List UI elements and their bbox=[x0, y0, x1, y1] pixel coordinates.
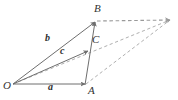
vector-label-a: a bbox=[48, 82, 53, 92]
vertex-label-C: C bbox=[92, 34, 99, 45]
edge-B-D-line bbox=[97, 20, 170, 21]
edge-O-D-line bbox=[13, 20, 170, 84]
vertex-label-B: B bbox=[94, 3, 101, 14]
dashed-edges bbox=[13, 20, 170, 84]
vertex-label-A: A bbox=[88, 85, 95, 96]
edge-A-B-line bbox=[85, 22, 95, 85]
vector-label-c: c bbox=[60, 46, 64, 56]
vector-label-b: b bbox=[45, 33, 50, 43]
vector-diagram-figure: O A B C b c a bbox=[0, 0, 178, 100]
edge-A-D-line bbox=[86, 20, 170, 84]
vertex-label-O: O bbox=[3, 80, 11, 91]
solid-edges bbox=[13, 22, 95, 85]
